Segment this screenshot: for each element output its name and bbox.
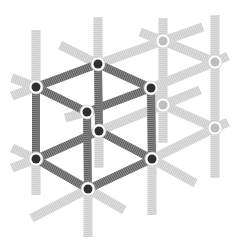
dark-node: [32, 83, 41, 92]
light-spring: [211, 15, 220, 178]
lattice-canvas: [0, 0, 244, 247]
dark-spring: [32, 87, 40, 159]
light-spring: [148, 159, 157, 215]
dark-spring: [83, 112, 92, 190]
dark-node: [94, 60, 103, 69]
dark-node: [148, 155, 157, 164]
light-node: [211, 58, 220, 67]
light-spring-layer: [10, 15, 230, 237]
light-node: [159, 101, 168, 110]
dark-node: [83, 108, 92, 117]
light-node: [211, 124, 220, 133]
dark-spring: [147, 88, 156, 160]
light-spring: [32, 30, 41, 87]
dark-node: [147, 84, 156, 93]
dark-spring: [94, 64, 103, 132]
dark-node: [95, 127, 104, 136]
dark-spring: [35, 60, 100, 91]
light-node: [159, 37, 168, 46]
dark-node: [32, 155, 41, 164]
dark-node: [84, 185, 93, 194]
spring-lattice-diagram: [0, 0, 244, 247]
dark-node-layer: [29, 57, 159, 196]
